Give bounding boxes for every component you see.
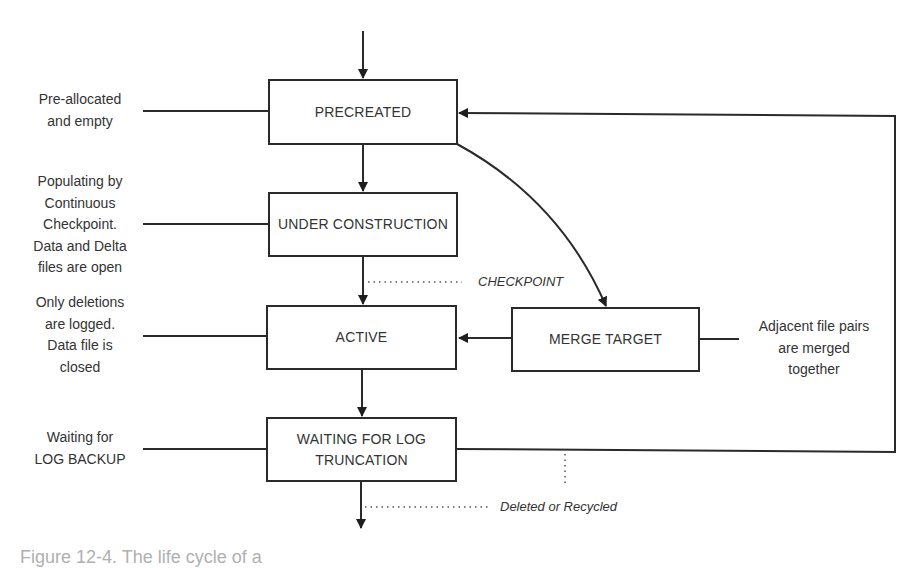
note-line: and empty (10, 111, 150, 133)
note-line: Data and Delta (10, 236, 150, 258)
edge-label-checkpoint: CHECKPOINT (478, 274, 563, 289)
state-label-line: TRUNCATION (315, 450, 408, 471)
note-active: Only deletions are logged. Data file is … (10, 292, 150, 378)
note-line: Data file is (10, 335, 150, 357)
note-line: files are open (10, 257, 150, 279)
state-precreated: PRECREATED (268, 79, 458, 145)
state-label: PRECREATED (315, 102, 412, 123)
note-line: are merged (740, 338, 888, 360)
state-label-line: WAITING FOR LOG (297, 429, 426, 450)
note-line: Checkpoint. (10, 214, 150, 236)
note-precreated: Pre-allocated and empty (10, 89, 150, 132)
figure-caption: Figure 12-4. The life cycle of a (20, 547, 262, 568)
note-line: Pre-allocated (10, 89, 150, 111)
note-line: are logged. (10, 314, 150, 336)
state-under-construction: UNDER CONSTRUCTION (268, 192, 458, 257)
note-merge-target: Adjacent file pairs are merged together (740, 316, 888, 381)
state-active: ACTIVE (266, 305, 457, 370)
state-label: MERGE TARGET (549, 329, 662, 350)
note-waiting: Waiting for LOG BACKUP (10, 427, 150, 470)
note-line: Continuous (10, 193, 150, 215)
note-line: Only deletions (10, 292, 150, 314)
note-line: LOG BACKUP (10, 449, 150, 471)
state-waiting-for-log-truncation: WAITING FOR LOG TRUNCATION (266, 417, 457, 482)
state-label: UNDER CONSTRUCTION (278, 214, 448, 235)
note-line: Adjacent file pairs (740, 316, 888, 338)
note-line: closed (10, 357, 150, 379)
note-line: together (740, 359, 888, 381)
note-line: Populating by (10, 171, 150, 193)
edge-label-deleted-or-recycled: Deleted or Recycled (500, 499, 617, 514)
note-line: Waiting for (10, 427, 150, 449)
note-under-construction: Populating by Continuous Checkpoint. Dat… (10, 171, 150, 279)
state-label: ACTIVE (336, 327, 388, 348)
state-merge-target: MERGE TARGET (511, 307, 700, 372)
